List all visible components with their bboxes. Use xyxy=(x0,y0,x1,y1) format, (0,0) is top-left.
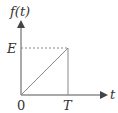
origin-label: 0 xyxy=(17,98,25,113)
ramp-diagram: f(t) t E 0 T xyxy=(0,0,118,113)
x-axis-label: t xyxy=(110,87,116,102)
t-end-label: T xyxy=(63,98,73,113)
y-axis-label: f(t) xyxy=(9,4,30,19)
ramp-line xyxy=(21,48,68,95)
e-level-label: E xyxy=(6,41,17,56)
